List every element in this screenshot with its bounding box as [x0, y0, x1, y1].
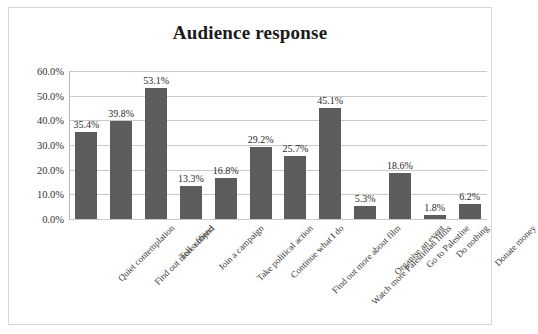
y-tick-label: 50.0%: [12, 90, 64, 101]
bar-slot: 45.1%: [313, 71, 348, 219]
x-tick-label: Donate money: [493, 223, 538, 268]
bar-slot: 16.8%: [208, 71, 243, 219]
bar[interactable]: [250, 147, 272, 219]
y-tick-label: 10.0%: [12, 189, 64, 200]
bar-slot: 53.1%: [139, 71, 174, 219]
x-tick-label: Take political action: [255, 223, 315, 283]
bar[interactable]: [215, 178, 237, 219]
x-tick-label: Join a campaign: [216, 223, 265, 272]
bar-value-label: 45.1%: [317, 95, 343, 106]
bar-value-label: 1.8%: [424, 202, 445, 213]
bar[interactable]: [145, 88, 167, 219]
plot-area: 35.4%39.8%53.1%13.3%16.8%29.2%25.7%45.1%…: [69, 71, 487, 219]
bar[interactable]: [180, 186, 202, 219]
y-tick-label: 30.0%: [12, 140, 64, 151]
y-axis-tick-labels: 60.0%50.0%40.0%30.0%20.0%10.0%0.0%: [9, 71, 64, 219]
bar[interactable]: [75, 132, 97, 219]
bar-value-label: 35.4%: [73, 119, 99, 130]
bar-value-label: 5.3%: [355, 193, 376, 204]
bar[interactable]: [110, 121, 132, 219]
bar-value-label: 29.2%: [248, 134, 274, 145]
bar[interactable]: [319, 108, 341, 219]
bar[interactable]: [459, 204, 481, 219]
y-tick-label: 20.0%: [12, 164, 64, 175]
y-tick-label: 40.0%: [12, 115, 64, 126]
bar-value-label: 25.7%: [282, 143, 308, 154]
bar-slot: 13.3%: [174, 71, 209, 219]
bar-value-label: 18.6%: [387, 160, 413, 171]
gridline: [69, 219, 487, 220]
bar[interactable]: [389, 173, 411, 219]
x-tick-label: Tell a friend: [177, 223, 216, 262]
bar-slot: 39.8%: [104, 71, 139, 219]
bar-value-label: 16.8%: [213, 165, 239, 176]
bar[interactable]: [284, 156, 306, 219]
bar-slot: 25.7%: [278, 71, 313, 219]
y-tick-label: 60.0%: [12, 66, 64, 77]
bar-value-label: 53.1%: [143, 75, 169, 86]
bar-slot: 29.2%: [243, 71, 278, 219]
bar-value-label: 6.2%: [459, 191, 480, 202]
bar-slot: 1.8%: [417, 71, 452, 219]
bar-value-label: 13.3%: [178, 173, 204, 184]
chart-title: Audience response: [9, 22, 491, 44]
bar-slot: 6.2%: [452, 71, 487, 219]
bar[interactable]: [424, 215, 446, 219]
bar-value-label: 39.8%: [108, 108, 134, 119]
chart-frame: Audience response 60.0%50.0%40.0%30.0%20…: [8, 7, 492, 325]
bar-slot: 5.3%: [348, 71, 383, 219]
bar-slot: 18.6%: [383, 71, 418, 219]
bar-slot: 35.4%: [69, 71, 104, 219]
y-tick-label: 0.0%: [12, 214, 64, 225]
x-axis-category-labels: Quiet contemplationFind out more subject…: [69, 221, 487, 331]
bar[interactable]: [354, 206, 376, 219]
